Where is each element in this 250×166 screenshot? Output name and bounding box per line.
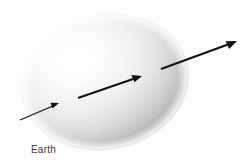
earth-expansion-diagram: Earth [0,0,250,166]
diagram-canvas [0,0,250,166]
earth-label: Earth [31,144,56,156]
earth-sphere [10,0,200,164]
